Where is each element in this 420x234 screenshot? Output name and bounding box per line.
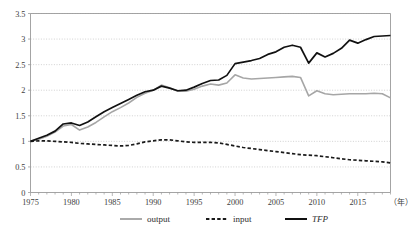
y-tick-label: 2.5	[15, 61, 25, 70]
series-line-tfp	[31, 35, 391, 141]
x-tick-label: 1980	[63, 198, 80, 207]
legend-label-output: output	[147, 214, 171, 224]
x-tick-label: 2010	[309, 198, 326, 207]
y-tick-label: 2	[21, 86, 25, 95]
chart-legend: outputinputTFP	[120, 214, 329, 224]
series-line-input	[31, 140, 391, 163]
series-lines	[31, 35, 391, 162]
y-tick-label: 1	[21, 137, 25, 146]
y-axis: 00.511.522.533.5	[15, 10, 30, 198]
legend-label-tfp: TFP	[312, 214, 329, 224]
x-tick-label: 2000	[227, 198, 244, 207]
chart-canvas: 00.511.522.533.5 19751980198519901995200…	[0, 0, 420, 234]
y-tick-label: 0	[21, 189, 25, 198]
tfp-line-chart: 00.511.522.533.5 19751980198519901995200…	[0, 0, 420, 234]
x-tick-label: 2015	[349, 198, 366, 207]
y-tick-label: 0.5	[15, 163, 25, 172]
y-tick-label: 1.5	[15, 112, 25, 121]
x-tick-label: 2005	[268, 198, 285, 207]
y-tick-label: 3.5	[15, 10, 25, 19]
y-tick-label: 3	[21, 35, 25, 44]
x-axis: 197519801985199019952000200520102015（年）	[22, 193, 412, 208]
legend-label-input: input	[233, 214, 252, 224]
x-tick-label: 1995	[186, 198, 203, 207]
grid-lines	[31, 14, 391, 193]
x-tick-label: 1975	[22, 198, 39, 207]
x-axis-unit-label: （年）	[389, 197, 413, 207]
x-tick-label: 1990	[145, 198, 162, 207]
series-line-output	[31, 75, 391, 141]
x-tick-label: 1985	[104, 198, 121, 207]
